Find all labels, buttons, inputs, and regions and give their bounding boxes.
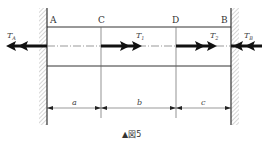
torque-label-t1: T1 — [136, 31, 145, 41]
point-label-b: B — [221, 15, 228, 25]
figure-caption: ▲図5 — [122, 130, 141, 139]
dimension-label-c: c — [201, 98, 206, 107]
point-label-a: A — [49, 15, 57, 25]
torque-label-ta: TA — [7, 31, 16, 41]
point-label-d: D — [172, 15, 179, 25]
dimension-label-b: b — [137, 98, 142, 107]
shaft-diagram: A C D B TA T1 T2 TB a b — [0, 0, 267, 141]
dimension-label-a: a — [72, 98, 77, 107]
torque-label-t2: T2 — [210, 31, 219, 41]
torque-label-tb: TB — [244, 31, 253, 41]
left-wall-support — [39, 8, 47, 125]
right-wall-support — [231, 8, 239, 125]
torque-t2-double-arrow-icon — [176, 41, 217, 51]
point-label-c: C — [98, 15, 105, 25]
torque-t1-double-arrow-icon — [101, 41, 142, 51]
